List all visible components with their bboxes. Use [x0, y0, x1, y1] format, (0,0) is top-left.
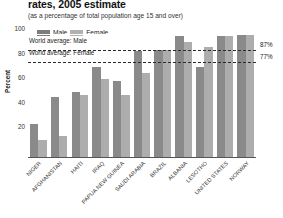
- y-tick-label: 100: [14, 25, 25, 32]
- chart-subtitle: (as a percentage of total population age…: [28, 12, 228, 20]
- average-line-value: 87%: [260, 41, 273, 48]
- chart-figure: rates, 2005 estimate (as a percentage of…: [0, 0, 283, 218]
- x-tick-label: HAITI: [69, 160, 84, 175]
- bar-group: [215, 35, 236, 158]
- bar-female: [59, 136, 67, 158]
- average-line-label: World average: Male: [29, 37, 87, 44]
- bar-male: [175, 36, 183, 158]
- bar-group: [235, 35, 256, 158]
- bar-female: [101, 79, 109, 158]
- bar-female: [184, 42, 192, 158]
- x-label-cell: SAUDI ARABIA: [132, 160, 153, 218]
- bar-male: [113, 81, 121, 158]
- bar-male: [154, 50, 162, 158]
- average-line-value: 77%: [260, 53, 273, 60]
- bar-female: [80, 95, 88, 158]
- bar-group: [152, 35, 173, 158]
- bar-male: [30, 124, 38, 158]
- x-axis-line: [28, 157, 256, 158]
- bar-female: [142, 73, 150, 158]
- bar-male: [196, 67, 204, 158]
- bar-female: [204, 47, 212, 158]
- x-label-cell: AFGHANISTAN: [49, 160, 70, 218]
- x-label-cell: BRAZIL: [152, 160, 173, 218]
- chart-title: rates, 2005 estimate: [28, 0, 268, 10]
- x-label-cell: HAITI: [69, 160, 90, 218]
- x-tick-label: IRAQ: [91, 160, 105, 174]
- x-label-cell: NORWAY: [235, 160, 256, 218]
- y-tick-label: 20: [18, 123, 25, 130]
- y-tick-label: 60: [18, 74, 25, 81]
- bar-male: [217, 36, 225, 158]
- bar-female: [38, 140, 46, 158]
- bar-male: [72, 92, 80, 158]
- bar-female: [225, 36, 233, 158]
- bar-female: [246, 35, 254, 158]
- bar-female: [121, 95, 129, 158]
- average-line-label: World average: Female: [29, 49, 94, 56]
- average-line: [28, 62, 256, 63]
- bar-group: [132, 35, 153, 158]
- x-label-cell: UNITED STATES: [215, 160, 236, 218]
- x-tick-label: NIGER: [25, 160, 42, 177]
- bar-male: [237, 35, 245, 158]
- y-tick-label: 80: [18, 49, 25, 56]
- y-tick-label: 40: [18, 98, 25, 105]
- x-axis-labels: NIGERAFGHANISTANHAITIIRAQPAPUA NEW GUINE…: [28, 160, 256, 218]
- bar-group: [173, 35, 194, 158]
- bar-group: [111, 35, 132, 158]
- plot-area: World average: Male87%World average: Fem…: [28, 35, 256, 158]
- bar-male: [92, 67, 100, 158]
- bar-group: [194, 35, 215, 158]
- bar-female: [163, 50, 171, 158]
- bar-male: [51, 97, 59, 159]
- y-axis-label: Percent: [4, 70, 11, 93]
- bar-male: [134, 51, 142, 158]
- x-label-cell: ALBANIA: [173, 160, 194, 218]
